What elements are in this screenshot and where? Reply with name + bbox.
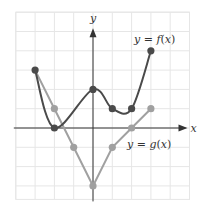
y-axis-arrow-icon	[90, 28, 97, 37]
g-legend-label: y = g(x)	[126, 138, 171, 151]
f-point	[31, 67, 38, 74]
f-point	[51, 124, 58, 131]
g-point	[109, 144, 116, 151]
x-axis-label: x	[191, 122, 198, 135]
g-point	[128, 124, 135, 131]
y-axis-label: y	[89, 12, 97, 25]
g-point	[89, 182, 96, 189]
f-point	[147, 47, 154, 54]
f-point	[109, 105, 116, 112]
g-point	[147, 105, 154, 112]
x-axis-arrow-icon	[179, 125, 188, 132]
function-graph: x y y = f(x) y = g(x)	[0, 0, 202, 216]
f-point	[128, 105, 135, 112]
g-point	[51, 105, 58, 112]
f-point	[89, 86, 96, 93]
f-legend-label: y = f(x)	[133, 33, 175, 46]
g-point	[70, 144, 77, 151]
